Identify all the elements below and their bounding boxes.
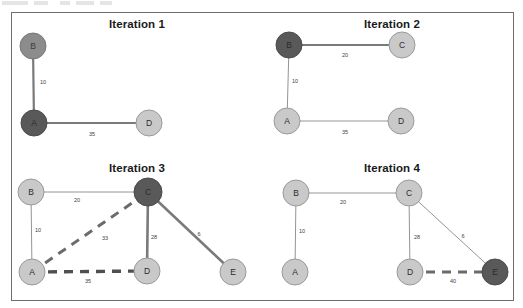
panel-iteration-3: Iteration 3 20 10 33 35 28 6 B C A [12, 157, 262, 302]
edge-weight-B-C: 20 [342, 52, 348, 58]
node-label-D: D [398, 116, 404, 126]
graph-iteration-3: 20 10 33 35 28 6 B C A D E [12, 157, 262, 302]
node-label-C: C [399, 40, 405, 50]
node-label-A: A [31, 118, 37, 128]
node-label-A: A [29, 267, 35, 277]
node-label-D: D [144, 266, 150, 276]
node-label-C: C [406, 188, 412, 198]
edge-weight-C-D: 28 [151, 234, 157, 240]
edge-weight-B-C: 20 [74, 197, 80, 203]
edge-weight-A-C: 33 [102, 235, 108, 241]
graph-iteration-2: 20 10 35 B C A D [269, 13, 515, 157]
edge-weight-A-D: 35 [342, 129, 348, 135]
panel-iteration-2: Iteration 2 20 10 35 B C A D [269, 13, 515, 157]
edge-weight-B-A: 10 [40, 79, 46, 85]
iteration-diagram-figure: Iteration 1 10 35 B A D Iteration 2 20 [0, 0, 523, 308]
node-label-B: B [293, 188, 299, 198]
node-label-D: D [146, 118, 152, 128]
node-label-A: A [284, 116, 290, 126]
diagram-frame: Iteration 1 10 35 B A D Iteration 2 20 [11, 12, 514, 301]
edge-weight-B-A: 10 [35, 227, 41, 233]
edge-weight-B-A: 10 [299, 228, 305, 234]
edge-weight-C-E: 6 [197, 231, 200, 237]
edge-weight-C-D: 28 [414, 234, 420, 240]
node-label-B: B [28, 187, 34, 197]
top-scan-artifact [0, 0, 523, 11]
edge-A-C-dashed [32, 192, 148, 272]
edge-weight-B-C: 20 [340, 199, 346, 205]
node-label-E: E [230, 267, 236, 277]
edge-weight-B-A: 10 [292, 78, 298, 84]
node-label-B: B [286, 40, 292, 50]
node-label-C: C [145, 187, 151, 197]
edge-weight-C-E: 6 [461, 233, 464, 239]
node-label-B: B [30, 41, 36, 51]
graph-iteration-4: 20 10 28 6 40 B C A D E [269, 157, 515, 302]
panel-iteration-1: Iteration 1 10 35 B A D [12, 13, 262, 157]
panel-iteration-4: Iteration 4 20 10 28 6 40 B C A D [269, 157, 515, 302]
edge-weight-D-E: 40 [450, 278, 456, 284]
edge-A-D-dashed [32, 271, 147, 272]
graph-iteration-1: 10 35 B A D [12, 13, 262, 157]
edge-weight-A-D: 35 [85, 278, 91, 284]
edge-C-E [409, 193, 495, 272]
node-label-A: A [292, 267, 298, 277]
node-label-E: E [492, 267, 498, 277]
edge-weight-A-D: 35 [89, 131, 95, 137]
node-label-D: D [407, 267, 413, 277]
edge-C-E [148, 192, 233, 272]
